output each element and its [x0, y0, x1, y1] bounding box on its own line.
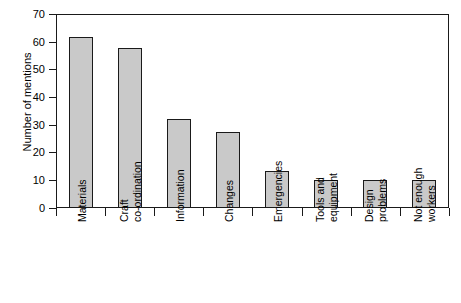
y-tick-mark-20 — [49, 152, 56, 153]
bars-layer — [56, 14, 449, 208]
y-tick-label-70: 70 — [18, 9, 45, 20]
x-tick-mark-3 — [203, 208, 204, 216]
y-tick-label-0: 0 — [18, 203, 45, 214]
y-tick-mark-0 — [49, 208, 56, 209]
x-label-information: Information — [174, 132, 188, 222]
y-tick-mark-70 — [49, 14, 56, 15]
x-tick-mark-5 — [302, 208, 303, 216]
y-tick-label-10: 10 — [18, 175, 45, 186]
x-tick-mark-4 — [252, 208, 253, 216]
x-label-craft-coordination: Craft co-ordination — [118, 132, 132, 222]
x-label-emergencies: Emergencies — [272, 132, 286, 222]
y-tick-label-20: 20 — [18, 147, 45, 158]
x-tick-mark-6 — [351, 208, 352, 216]
x-tick-mark-2 — [154, 208, 155, 216]
bar-chart: Number of mentions 70 60 50 40 30 20 10 … — [0, 0, 461, 303]
x-tick-mark-0 — [56, 208, 57, 216]
y-tick-label-60: 60 — [18, 37, 45, 48]
y-tick-mark-50 — [49, 69, 56, 70]
x-label-materials: Materials — [76, 132, 90, 222]
y-tick-mark-40 — [49, 97, 56, 98]
y-tick-label-50: 50 — [18, 64, 45, 75]
y-tick-mark-60 — [49, 42, 56, 43]
x-tick-mark-7 — [400, 208, 401, 216]
y-tick-label-30: 30 — [18, 120, 45, 131]
x-tick-mark-1 — [105, 208, 106, 216]
y-tick-mark-30 — [49, 125, 56, 126]
y-tick-label-40: 40 — [18, 92, 45, 103]
x-tick-mark-8 — [449, 208, 450, 216]
x-label-tools-and-equipment: Tools and equipment — [314, 132, 328, 222]
x-label-not-enough-workers: Not enough workers — [412, 132, 426, 222]
x-label-changes: Changes — [223, 132, 237, 222]
y-tick-mark-10 — [49, 180, 56, 181]
x-label-design-problems: Design problems — [363, 132, 377, 222]
